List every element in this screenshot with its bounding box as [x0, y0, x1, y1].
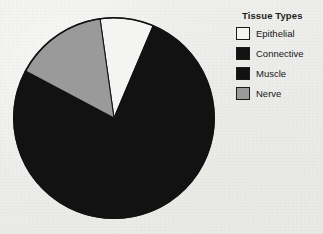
legend: Tissue Types EpithelialConnectiveMuscleN…: [236, 10, 322, 106]
chart-plot-area: [0, 0, 232, 234]
pie-chart-svg: [12, 16, 216, 220]
legend-item[interactable]: Connective: [236, 46, 322, 61]
legend-item[interactable]: Nerve: [236, 86, 322, 101]
legend-title: Tissue Types: [242, 10, 322, 21]
legend-item[interactable]: Epithelial: [236, 26, 322, 41]
legend-item-label: Muscle: [256, 67, 286, 80]
legend-item-label: Epithelial: [256, 27, 295, 40]
legend-swatch-icon: [236, 67, 250, 80]
legend-swatch-icon: [236, 47, 250, 60]
legend-swatch-icon: [236, 87, 250, 100]
pie-chart-figure: Tissue Types EpithelialConnectiveMuscleN…: [0, 0, 323, 234]
legend-swatch-icon: [236, 27, 250, 40]
pie-slice-group: [14, 18, 214, 218]
legend-item[interactable]: Muscle: [236, 66, 322, 81]
legend-item-label: Nerve: [256, 87, 281, 100]
legend-item-label: Connective: [256, 47, 304, 60]
legend-items: EpithelialConnectiveMuscleNerve: [236, 26, 322, 101]
